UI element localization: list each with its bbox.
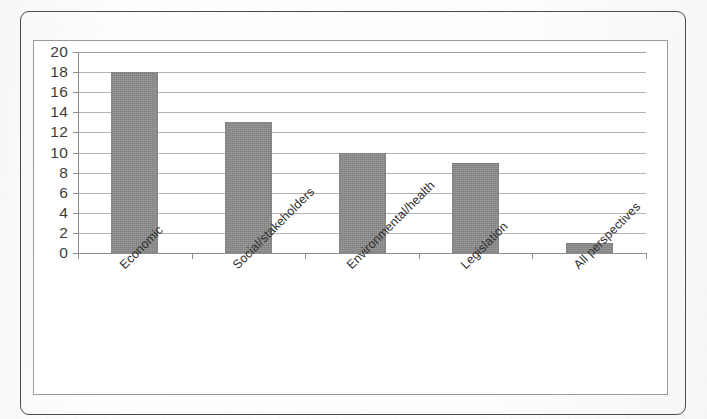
plot-area-frame — [33, 40, 668, 395]
chart-screenshot: 20181614121086420 EconomicSocial/stakeho… — [0, 0, 707, 419]
